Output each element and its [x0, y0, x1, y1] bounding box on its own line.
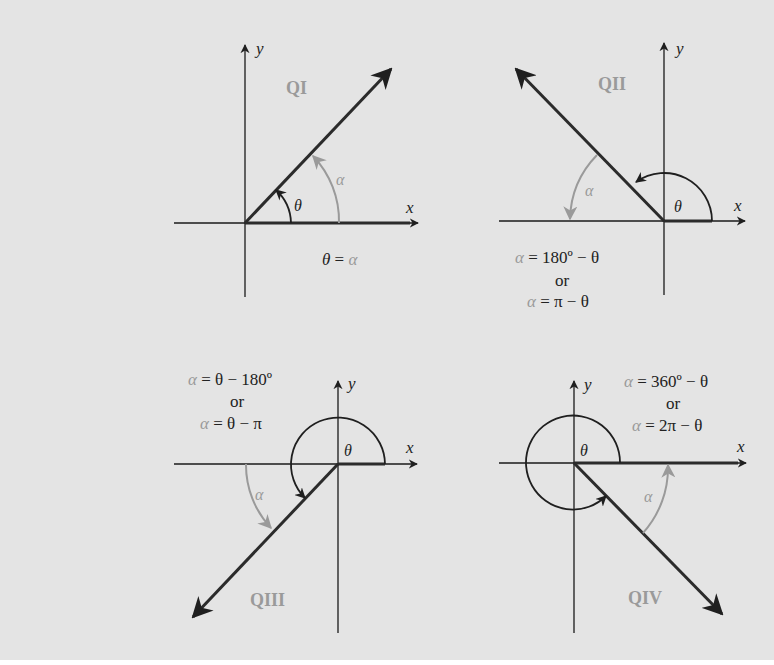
panel-quadrant-1: y x QI θ α θ = α: [174, 39, 418, 297]
y-axis-label: y: [582, 375, 592, 394]
formula-line-2: α = 2π − θ: [632, 416, 702, 435]
x-axis-label: x: [733, 196, 742, 215]
formula-line-1: α = θ − 180º: [188, 370, 272, 389]
theta-label: θ: [580, 442, 588, 459]
formula-rest: = 2π − θ: [641, 416, 702, 435]
alpha-label: α: [336, 171, 345, 188]
or-label: or: [666, 394, 681, 413]
alpha-label: α: [255, 486, 264, 503]
formula-line-1: α = 180º − θ: [515, 248, 599, 267]
theta-label: θ: [674, 198, 682, 215]
x-axis-label: x: [405, 438, 414, 457]
x-axis-label: x: [405, 198, 414, 217]
formula-alpha: α: [348, 250, 358, 269]
quadrant-label: QIII: [250, 590, 285, 610]
terminal-side: [245, 69, 391, 223]
alpha-label: α: [644, 488, 653, 505]
formula-line-2: α = π − θ: [527, 292, 589, 311]
quadrant-label: QI: [286, 78, 307, 98]
theta-arc: [276, 190, 291, 223]
formula-rest: = π − θ: [536, 292, 589, 311]
y-axis-label: y: [674, 39, 684, 58]
formula-rest: = 360º − θ: [633, 372, 708, 391]
theta-label: θ: [294, 197, 302, 214]
or-label: or: [230, 392, 245, 411]
alpha-label: α: [585, 182, 594, 199]
formula-rest: = θ − π: [209, 414, 262, 433]
alpha-arc: [313, 156, 339, 223]
x-axis-label: x: [736, 437, 745, 456]
y-axis-label: y: [346, 374, 356, 393]
formula-rest: = 180º − θ: [524, 248, 599, 267]
y-axis-label: y: [254, 39, 264, 58]
formula-rest: = θ − 180º: [197, 370, 272, 389]
formula-line-2: α = θ − π: [200, 414, 262, 433]
quadrant-label: QIV: [628, 588, 662, 608]
formula-line-1: α = 360º − θ: [624, 372, 708, 391]
formula-eq: =: [330, 250, 348, 269]
formula: θ = α: [322, 250, 358, 269]
formula-theta: θ: [322, 250, 330, 269]
panel-quadrant-4: y x QIV θ α α = 360º − θ or α = 2π − θ: [499, 372, 746, 633]
panel-quadrant-3: y x QIII θ α α = θ − 180º or α = θ − π: [174, 370, 417, 633]
panel-quadrant-2: y x QII θ α α = 180º − θ or α = π − θ: [499, 39, 745, 311]
quadrant-label: QII: [598, 74, 626, 94]
theta-label: θ: [344, 442, 352, 459]
or-label: or: [555, 271, 570, 290]
reference-angle-diagram: y x QI θ α θ = α y x QII θ α α = 180º − …: [0, 0, 774, 665]
